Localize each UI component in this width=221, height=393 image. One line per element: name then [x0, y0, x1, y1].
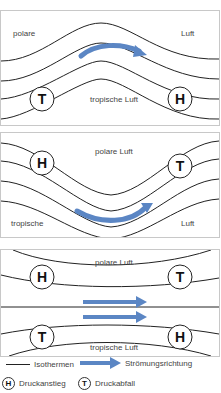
legend: Isothermen Strömungsrichtung H Druckanst…: [0, 357, 221, 393]
legend-isotherm-label: Isothermen: [34, 360, 74, 369]
svg-text:T: T: [38, 329, 47, 345]
legend-high: H Druckanstieg: [2, 377, 66, 390]
svg-text:T: T: [176, 158, 185, 174]
low-pressure-marker: T: [30, 87, 54, 111]
low-pressure-marker: T: [168, 154, 192, 178]
label-air: Luft: [181, 219, 194, 228]
high-pressure-marker: H: [30, 265, 54, 289]
label-tropical-air: tropische Luft: [90, 343, 138, 352]
high-pressure-marker: H: [168, 325, 192, 349]
label-tropical-air: tropische Luft: [90, 95, 138, 104]
svg-text:H: H: [37, 269, 47, 285]
low-pressure-marker: T: [168, 265, 192, 289]
svg-text:H: H: [37, 155, 47, 171]
label-polar: polare: [13, 29, 35, 38]
label-tropical: tropische: [11, 219, 43, 228]
panel-ridge: T H polare Luft tropische Luft: [0, 10, 220, 126]
high-pressure-marker: H: [30, 151, 54, 175]
legend-flow: Strömungsrichtung: [80, 357, 192, 369]
high-pressure-marker: H: [168, 87, 192, 111]
svg-text:H: H: [175, 91, 185, 107]
isotherm-line-icon: [6, 364, 30, 365]
legend-low-label: Druckabfall: [95, 379, 135, 388]
svg-text:T: T: [176, 269, 185, 285]
label-polar-air: polare Luft: [95, 147, 133, 156]
panel-straight: H T T H polare Luft tropische Luft: [0, 249, 220, 357]
svg-text:H: H: [175, 329, 185, 345]
flow-arrow-icon: [80, 357, 122, 369]
legend-low: T Druckabfall: [78, 377, 135, 390]
svg-text:T: T: [38, 91, 47, 107]
label-air: Luft: [181, 29, 194, 38]
label-polar-air: polare Luft: [95, 258, 133, 267]
high-pressure-icon: H: [2, 377, 15, 390]
low-pressure-icon: T: [78, 377, 91, 390]
legend-high-label: Druckanstieg: [19, 379, 66, 388]
panel-trough: H T polare Luft tropische Luft: [0, 132, 220, 238]
low-pressure-marker: T: [30, 325, 54, 349]
legend-flow-label: Strömungsrichtung: [125, 359, 192, 368]
legend-isotherm: Isothermen: [6, 360, 74, 369]
